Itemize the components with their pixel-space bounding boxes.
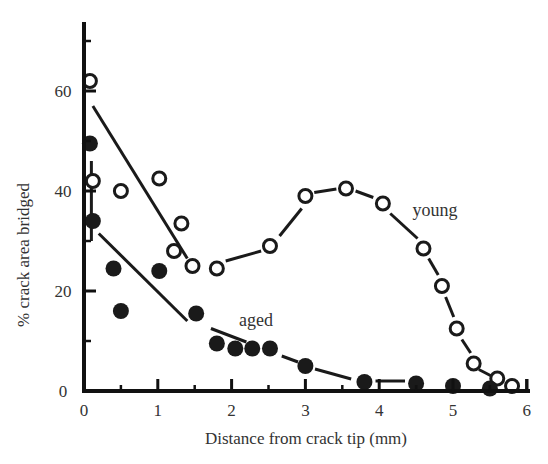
young-trend-segment <box>479 370 492 377</box>
young-data-point <box>114 185 127 198</box>
y-tick-label: 0 <box>59 382 68 401</box>
x-tick-label: 4 <box>375 401 384 420</box>
y-axis-label: % crack area bridged <box>14 183 33 327</box>
young-trend-segment <box>314 189 336 193</box>
young-trend-segment <box>280 209 302 237</box>
tick-labels: 01234560204060 <box>55 82 532 420</box>
x-tick-label: 6 <box>523 401 532 420</box>
x-tick-label: 5 <box>449 401 458 420</box>
plot-area <box>82 75 519 397</box>
young-trend-segment <box>93 106 187 259</box>
y-tick-label: 60 <box>55 82 72 101</box>
young-data-point <box>339 182 352 195</box>
young-trend-segment <box>356 191 374 198</box>
aged-data-point <box>227 341 243 357</box>
aged-data-point <box>188 306 204 322</box>
series-label-aged: aged <box>239 310 273 330</box>
aged-data-point <box>356 374 372 390</box>
aged-data-point <box>85 213 101 229</box>
young-data-point <box>210 262 223 275</box>
aged-data-point <box>244 341 260 357</box>
aged-trend-segment <box>315 369 351 379</box>
young-data-point <box>435 280 448 293</box>
young-data-point <box>153 172 166 185</box>
y-tick-label: 20 <box>55 282 72 301</box>
young-data-point <box>376 197 389 210</box>
young-data-point <box>175 217 188 230</box>
series-label-young: young <box>412 200 457 220</box>
chart: 01234560204060 Distance from crack tip (… <box>0 0 548 464</box>
aged-data-point <box>297 358 313 374</box>
x-tick-label: 3 <box>301 401 310 420</box>
x-tick-label: 1 <box>154 401 163 420</box>
aged-trend-segment <box>282 356 298 362</box>
ticks <box>84 41 527 391</box>
young-data-point <box>467 357 480 370</box>
young-trend-segment <box>462 340 471 354</box>
axes <box>82 22 530 393</box>
aged-data-point <box>113 303 129 319</box>
young-data-point <box>450 322 463 335</box>
x-tick-label: 0 <box>80 401 89 420</box>
x-axis-label: Distance from crack tip (mm) <box>205 429 407 448</box>
young-data-point <box>417 242 430 255</box>
aged-data-point <box>209 336 225 352</box>
young-data-point <box>186 260 199 273</box>
young-data-point <box>168 245 181 258</box>
aged-data-point <box>262 341 278 357</box>
aged-data-point <box>151 263 167 279</box>
y-tick-label: 40 <box>55 182 72 201</box>
aged-data-point <box>106 261 122 277</box>
young-trend-segment <box>446 297 454 317</box>
young-data-point <box>86 175 99 188</box>
x-tick-label: 2 <box>227 401 236 420</box>
young-data-point <box>299 190 312 203</box>
young-trend-segment <box>429 259 439 276</box>
young-data-point <box>263 240 276 253</box>
young-trend-segment <box>226 251 261 261</box>
